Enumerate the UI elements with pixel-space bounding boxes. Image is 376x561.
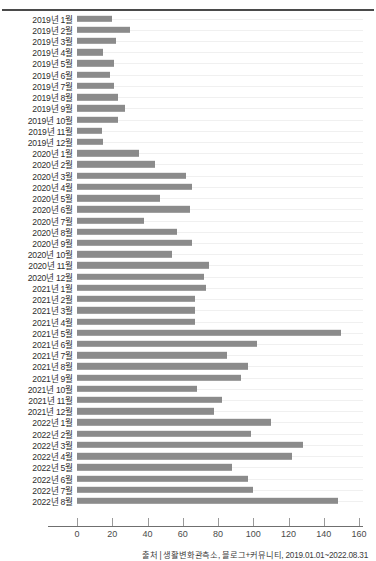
category-label: 2021년 1월 [32,282,73,294]
bar-row: 2019년 6월 [0,69,376,80]
bar-row: 2020년 7월 [0,215,376,226]
category-label: 2020년 11월 [28,259,73,271]
bar [77,363,248,369]
category-label: 2022년 2월 [32,428,73,440]
category-label: 2020년 6월 [32,203,73,215]
bar-row: 2022년 4월 [0,451,376,462]
bar-row: 2022년 1월 [0,417,376,428]
category-label: 2021년 2월 [32,293,73,305]
row-gridline [77,63,363,64]
bar [77,475,248,481]
bar-row: 2022년 8월 [0,495,376,506]
category-label: 2020년 7월 [32,215,73,227]
bar [77,150,139,156]
bar-row: 2020년 10월 [0,249,376,260]
bar-row: 2021년 2월 [0,293,376,304]
x-axis-tick-label: 40 [142,529,152,539]
x-axis-tick-label: 80 [213,529,223,539]
x-axis-tick [359,518,360,526]
bar [77,94,118,100]
bar [77,116,118,122]
row-gridline [77,41,363,42]
bar [77,38,116,44]
bar-row: 2019년 8월 [0,92,376,103]
bar-chart: 2019년 1월2019년 2월2019년 3월2019년 4월2019년 5월… [0,0,376,561]
bar-row: 2020년 11월 [0,260,376,271]
row-gridline [77,19,363,20]
bar-row: 2022년 2월 [0,428,376,439]
bar-row: 2019년 1월 [0,13,376,24]
bar [77,397,222,403]
category-label: 2020년 3월 [32,170,73,182]
bar-row: 2022년 7월 [0,484,376,495]
row-gridline [77,97,363,98]
category-label: 2021년 3월 [32,304,73,316]
x-axis-tick [289,518,290,526]
bar [77,431,251,437]
source-caption: 출처 | 생활변화관측소, 블로그+커뮤니티, 2019.01.01~2022.… [142,548,368,560]
bar [77,60,114,66]
bar [77,27,130,33]
row-gridline [77,75,363,76]
bar-row: 2019년 7월 [0,80,376,91]
category-label: 2022년 4월 [32,450,73,462]
category-label: 2019년 12월 [28,136,73,148]
row-gridline [77,86,363,87]
category-label: 2022년 1월 [32,416,73,428]
bar [77,15,112,21]
bar [77,408,214,414]
x-axis-tick-label: 60 [178,529,188,539]
x-axis-tick [253,518,254,526]
bar-row: 2020년 8월 [0,226,376,237]
bar [77,330,341,336]
x-axis-tick-label: 140 [316,529,331,539]
bar [77,419,271,425]
category-label: 2019년 7월 [32,80,73,92]
bar-row: 2019년 9월 [0,103,376,114]
category-label: 2020년 1월 [32,147,73,159]
bar-row: 2021년 9월 [0,372,376,383]
bar-row: 2020년 6월 [0,204,376,215]
bar [77,105,125,111]
category-label: 2020년 10월 [28,248,73,260]
bar [77,318,195,324]
bar [77,195,160,201]
bar-row: 2022년 5월 [0,462,376,473]
bar-row: 2020년 2월 [0,159,376,170]
bar [77,229,177,235]
bar [77,386,197,392]
bar [77,206,190,212]
bar-row: 2019년 12월 [0,136,376,147]
x-axis-tick [148,518,149,526]
bar-row: 2020년 12월 [0,271,376,282]
bar-row: 2019년 3월 [0,35,376,46]
bar [77,161,155,167]
bar [77,184,192,190]
x-axis: 020406080100120140160 출처 | 생활변화관측소, 블로그+… [0,517,376,561]
row-gridline [77,142,363,143]
bar-row: 2020년 9월 [0,237,376,248]
header-divider [2,9,374,11]
bar-row: 2020년 1월 [0,148,376,159]
bar-row: 2019년 2월 [0,24,376,35]
bar [77,498,338,504]
bar [77,453,292,459]
x-axis-line [48,526,363,527]
clipped-title [8,0,148,8]
x-axis-tick [77,518,78,526]
bar-row: 2021년 6월 [0,338,376,349]
bar-row: 2020년 4월 [0,181,376,192]
category-label: 2021년 12월 [28,405,73,417]
row-gridline [77,52,363,53]
bar-row: 2019년 10월 [0,114,376,125]
category-label: 2021년 11월 [28,394,73,406]
category-label: 2019년 5월 [32,57,73,69]
category-label: 2021년 8월 [32,360,73,372]
bar [77,240,192,246]
category-label: 2022년 6월 [32,473,73,485]
category-label: 2022년 7월 [32,484,73,496]
category-label: 2019년 11월 [28,125,73,137]
bar-row: 2021년 8월 [0,361,376,372]
bar-row: 2021년 3월 [0,305,376,316]
category-label: 2021년 4월 [32,316,73,328]
